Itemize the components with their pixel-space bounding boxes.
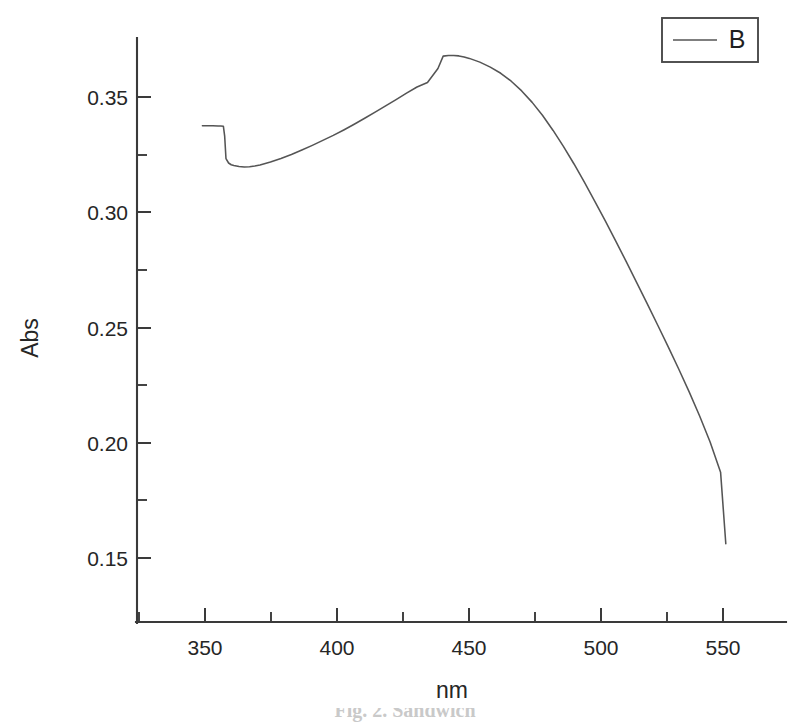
x-axis-ticks xyxy=(139,608,723,622)
caption-strip: Fig. 2. Sandwich xyxy=(0,708,810,722)
y-tick-label: 0.20 xyxy=(87,432,128,455)
y-tick-label: 0.30 xyxy=(87,201,128,224)
axis-lines xyxy=(136,38,786,623)
data-series-line-B xyxy=(202,55,725,543)
y-axis-tick-labels: 0.35 0.30 0.25 0.20 0.15 xyxy=(87,86,128,570)
plot-area: 0.35 0.30 0.25 0.20 0.15 350 400 450 500… xyxy=(0,0,810,722)
x-tick-label: 500 xyxy=(583,636,618,659)
x-axis-tick-labels: 350 400 450 500 550 xyxy=(187,636,740,659)
x-tick-label: 550 xyxy=(705,636,740,659)
x-tick-label: 450 xyxy=(451,636,486,659)
y-axis-title: Abs xyxy=(17,318,43,358)
x-axis-title: nm xyxy=(436,677,468,703)
spectrum-figure: 0.35 0.30 0.25 0.20 0.15 350 400 450 500… xyxy=(0,0,810,722)
figure-caption: Fig. 2. Sandwich xyxy=(0,708,810,722)
x-tick-label: 350 xyxy=(187,636,222,659)
legend-entry-label: B xyxy=(729,25,746,53)
x-tick-label: 400 xyxy=(319,636,354,659)
y-tick-label: 0.35 xyxy=(87,86,128,109)
legend[interactable]: B xyxy=(662,18,758,62)
y-tick-label: 0.25 xyxy=(87,317,128,340)
y-tick-label: 0.15 xyxy=(87,547,128,570)
y-axis-ticks xyxy=(137,97,151,558)
